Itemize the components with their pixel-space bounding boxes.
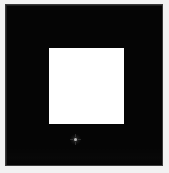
- faint-speck-marker: [70, 134, 81, 145]
- speck-tick-right: [78, 139, 81, 140]
- speck-tick-up: [75, 134, 76, 137]
- speck-core: [74, 138, 77, 141]
- speck-halo: [70, 134, 81, 145]
- black-field-panel[interactable]: [5, 4, 163, 166]
- panel-bottom-gradient: [6, 147, 162, 165]
- screenshot-root: High-contrast black field containing a c…: [0, 0, 169, 173]
- speck-tick-left: [70, 139, 73, 140]
- white-square-shape[interactable]: [49, 48, 124, 124]
- speck-tick-down: [75, 142, 76, 145]
